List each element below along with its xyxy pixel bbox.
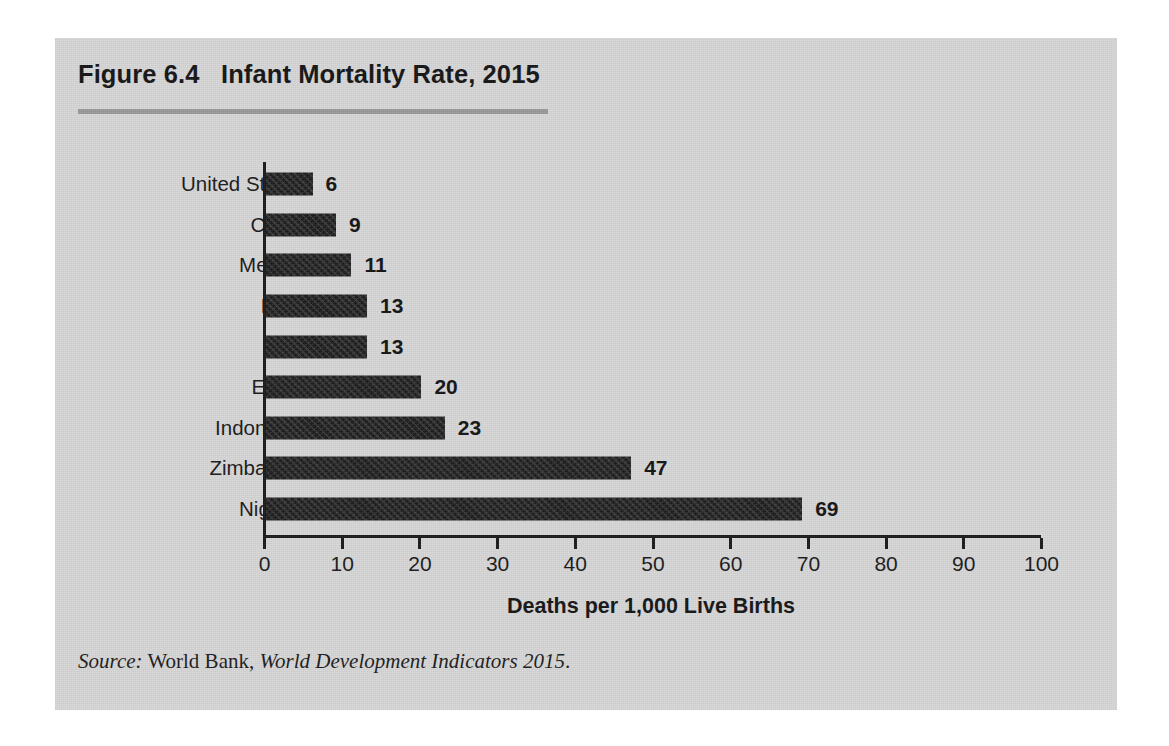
x-axis-tick-label: 100	[1024, 552, 1059, 576]
bar-value-label: 13	[380, 294, 403, 318]
x-axis-tick-label: 70	[797, 552, 820, 576]
source-note: Source: World Bank, World Development In…	[78, 649, 570, 674]
bar-value-label: 20	[434, 375, 457, 399]
bar-row: Peru13	[55, 286, 1117, 327]
bar-row: Mexico11	[55, 245, 1117, 286]
source-prefix: Source:	[78, 649, 143, 673]
bar-row: Zimbabwe47	[55, 448, 1117, 489]
x-axis-tick-label: 10	[331, 552, 354, 576]
bar-value-label: 11	[364, 253, 386, 277]
bar-row: China9	[55, 205, 1117, 246]
bar	[266, 173, 313, 196]
bar	[266, 254, 351, 277]
x-axis-title: Deaths per 1,000 Live Births	[55, 594, 1117, 619]
x-axis-tick	[807, 538, 810, 549]
x-axis-tick	[574, 538, 577, 549]
bar	[266, 376, 421, 399]
x-axis-tick	[885, 538, 888, 549]
bar	[266, 416, 445, 439]
x-axis-tick-label: 80	[874, 552, 897, 576]
bar	[266, 213, 336, 236]
bar-value-label: 47	[644, 456, 667, 480]
figure-panel: Figure 6.4 Infant Mortality Rate, 2015 U…	[55, 38, 1117, 710]
bar-value-label: 6	[326, 172, 338, 196]
x-axis-tick-label: 90	[952, 552, 975, 576]
bar	[266, 498, 802, 521]
bar-chart-plot: United States6China9Mexico11Peru13Iran13…	[55, 38, 1117, 710]
source-publisher: World Bank,	[143, 649, 260, 673]
x-axis-tick	[418, 538, 421, 549]
x-axis-tick	[263, 538, 266, 549]
bar-value-label: 69	[815, 497, 838, 521]
x-axis-tick-label: 40	[564, 552, 587, 576]
bar	[266, 457, 631, 480]
bar-row: Iran13	[55, 326, 1117, 367]
x-axis-tick-label: 60	[719, 552, 742, 576]
bar-row: Nigeria69	[55, 489, 1117, 530]
bar-row: Egypt20	[55, 367, 1117, 408]
source-period: .	[565, 649, 570, 673]
x-axis-tick	[496, 538, 499, 549]
source-work-title: World Development Indicators 2015	[259, 649, 564, 673]
x-axis-tick-label: 20	[408, 552, 431, 576]
x-axis-tick-label: 30	[486, 552, 509, 576]
bar-row: Indonesia23	[55, 408, 1117, 449]
x-axis-tick	[652, 538, 655, 549]
bar-row: United States6	[55, 164, 1117, 205]
x-axis-tick-label: 0	[259, 552, 271, 576]
bar-value-label: 23	[458, 416, 481, 440]
x-axis-tick	[962, 538, 965, 549]
bar-value-label: 13	[380, 335, 403, 359]
bar-value-label: 9	[349, 213, 361, 237]
x-axis-tick	[1040, 538, 1043, 549]
x-axis-tick	[341, 538, 344, 549]
bar	[266, 335, 367, 358]
bar	[266, 295, 367, 318]
x-axis-tick-label: 50	[641, 552, 664, 576]
x-axis-tick	[729, 538, 732, 549]
